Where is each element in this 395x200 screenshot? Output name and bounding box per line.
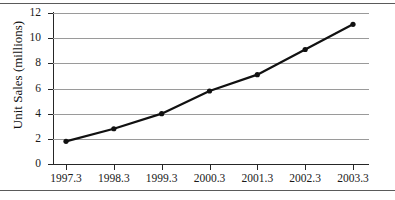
series-line-0	[66, 24, 353, 141]
data-point-marker	[111, 126, 116, 131]
y-tick-label-12: 12	[19, 7, 41, 19]
y-tick-mark-2	[48, 139, 53, 140]
x-tick-mark-1999.3	[162, 165, 163, 170]
data-point-marker	[63, 139, 68, 144]
data-point-marker	[350, 22, 355, 27]
series-line-chart	[0, 0, 395, 200]
y-tick-mark-4	[48, 114, 53, 115]
x-tick-mark-2003.3	[353, 165, 354, 170]
data-point-marker	[255, 72, 260, 77]
data-point-marker	[159, 111, 164, 116]
x-tick-mark-2002.3	[305, 165, 306, 170]
y-tick-label-10: 10	[19, 32, 41, 44]
chart-figure: Unit Sales (millions) 0246810121997.3199…	[0, 0, 395, 200]
y-tick-label-0: 0	[19, 158, 41, 170]
x-tick-label-2003.3: 2003.3	[323, 172, 383, 184]
y-tick-mark-0	[48, 164, 53, 165]
data-point-marker	[303, 47, 308, 52]
y-tick-mark-10	[48, 38, 53, 39]
y-tick-mark-8	[48, 63, 53, 64]
y-tick-label-8: 8	[19, 57, 41, 69]
x-tick-mark-2000.3	[210, 165, 211, 170]
y-tick-mark-6	[48, 89, 53, 90]
y-tick-label-4: 4	[19, 108, 41, 120]
x-tick-mark-1998.3	[114, 165, 115, 170]
data-point-marker	[207, 88, 212, 93]
y-tick-label-2: 2	[19, 133, 41, 145]
y-tick-mark-12	[48, 13, 53, 14]
y-tick-label-6: 6	[19, 83, 41, 95]
x-tick-mark-2001.3	[257, 165, 258, 170]
x-tick-mark-1997.3	[66, 165, 67, 170]
